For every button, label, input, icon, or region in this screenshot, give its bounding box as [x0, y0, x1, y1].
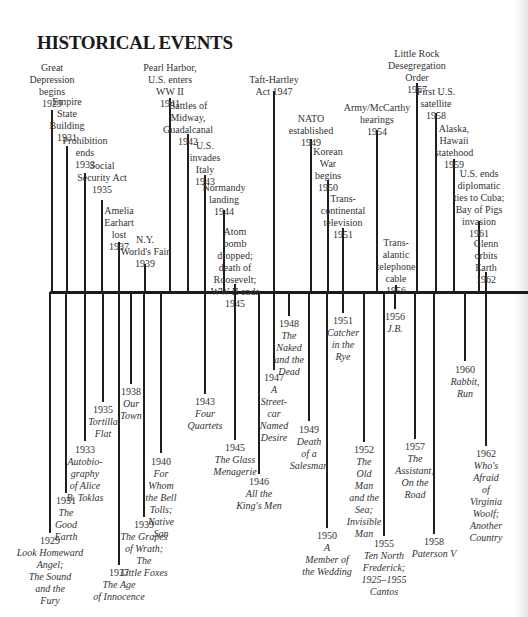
historical-event-label: Alaska, Hawaii statehood 1959 [435, 123, 473, 171]
work-year: 1958 [424, 536, 444, 547]
event-stem-below [204, 292, 206, 394]
work-title: The Naked and the Dead [274, 330, 304, 377]
work-title: All the King's Men [236, 488, 282, 511]
event-stem-above [101, 200, 103, 292]
event-stem-below [84, 292, 86, 441]
literary-work-label: 1952 The Old Man and the Sea; Invisible … [347, 444, 381, 540]
work-title: J.B. [387, 323, 403, 334]
work-year: 1951 [333, 315, 353, 326]
literary-work-label: 1945 The Glass Menagerie [213, 442, 256, 478]
work-title: Rabbit, Run [450, 376, 479, 399]
work-year: 1946 [249, 476, 269, 487]
work-title: The Good Earth [55, 507, 78, 542]
historical-event-label: Taft-Hartley Act 1947 [249, 74, 298, 98]
work-title: Paterson V [412, 548, 457, 559]
work-title: Our Town [120, 398, 141, 421]
work-title: The Assistant; On the Road [395, 453, 434, 500]
literary-work-label: 1947 A Street- car Named Desire [260, 372, 288, 444]
literary-work-label: 1940 For Whom the Bell Tolls; Native Son [146, 456, 177, 540]
event-stem-below [288, 292, 290, 316]
work-title: Who's Afraid of Virginia Woolf; Another … [470, 460, 503, 543]
literary-work-label: 1960 Rabbit, Run [450, 364, 479, 400]
work-year: 1960 [455, 364, 475, 375]
work-year: 1948 [279, 318, 299, 329]
historical-event-label: Social Security Act 1935 [77, 160, 127, 196]
work-title: The Old Man and the Sea; Invisible Man [347, 456, 381, 539]
literary-work-label: 1938 Our Town [120, 386, 141, 422]
work-year: 1949 [299, 424, 319, 435]
historical-event-label: First U.S. satellite 1958 [417, 86, 456, 122]
historical-event-label: NATO established 1949 [289, 113, 333, 149]
literary-work-label: 1955 Ten North Frederick; 1925–1955 Cant… [362, 538, 407, 598]
historical-event-label: Glenn orbits Earth 1962 [474, 238, 498, 286]
work-title: Catcher in the Rye [327, 327, 359, 362]
work-title: The Age of Innocence [93, 579, 144, 602]
page-edge-shading [514, 0, 528, 617]
literary-work-label: 1943 Four Quartets [188, 396, 223, 432]
event-stem-below [433, 292, 435, 534]
literary-work-label: 1962 Who's Afraid of Virginia Woolf; Ano… [470, 448, 503, 544]
historical-event-label: U.S. ends diplomatic ties to Cuba; Bay o… [454, 168, 505, 240]
work-title: Autobio- graphy of Alice B. Toklas [67, 456, 104, 503]
historical-event-label: Army/McCarthy hearings 1954 [344, 102, 411, 138]
page-title: HISTORICAL EVENTS [37, 32, 233, 54]
work-title: For Whom the Bell Tolls; Native Son [146, 468, 177, 539]
event-stem-below [49, 292, 51, 533]
event-stem-below [234, 292, 236, 440]
event-stem-above [187, 134, 189, 292]
literary-work-label: 1933 Autobio- graphy of Alice B. Toklas [67, 444, 104, 504]
work-title: Tortilla Flat [88, 416, 118, 439]
work-year: 1940 [151, 456, 171, 467]
literary-work-label: 1935 Tortilla Flat [88, 404, 118, 440]
event-stem-below [414, 292, 416, 439]
work-year: 1935 [93, 404, 113, 415]
event-stem-below [394, 292, 396, 309]
historical-event-label: U.S. invades Italy 1943 [190, 140, 221, 188]
event-stem-above [310, 139, 312, 292]
work-year: 1952 [354, 444, 374, 455]
work-title: Four Quartets [188, 408, 223, 431]
event-stem-below [308, 292, 310, 421]
work-year: 1950 [317, 530, 337, 541]
work-title: Ten North Frederick; 1925–1955 Cantos [362, 550, 407, 597]
work-title: A Member of the Wedding [302, 542, 351, 577]
literary-work-label: 1958 Paterson V [412, 536, 457, 560]
literary-work-label: 1957 The Assistant; On the Road [395, 441, 434, 501]
historical-event-label: Trans- alantic telephone cable 1956 [377, 237, 416, 297]
work-year: 1938 [121, 386, 141, 397]
work-title: Look Homeward Angel; The Sound and the F… [17, 547, 84, 606]
literary-work-label: 1929 Look Homeward Angel; The Sound and … [17, 535, 84, 607]
work-year: 1962 [476, 448, 496, 459]
literary-work-label: 1949 Death of a Salesman [290, 424, 328, 472]
literary-work-label: 1951 Catcher in the Rye [327, 315, 359, 363]
event-stem-below [160, 292, 162, 453]
historical-event-label: Trans- continental television 1951 [321, 193, 365, 241]
literary-work-label: 1950 A Member of the Wedding [302, 530, 351, 578]
event-stem-below [102, 292, 104, 402]
literary-work-label: 1956 J.B. [385, 311, 405, 335]
event-stem-above [273, 91, 275, 292]
historical-event-label: Korean War begins 1950 [313, 146, 342, 194]
historical-event-label: N.Y. World's Fair 1939 [120, 234, 169, 270]
work-title: A Street- car Named Desire [260, 384, 288, 443]
event-stem-below [464, 292, 466, 361]
event-stem-below [130, 292, 132, 384]
work-year: 1956 [385, 311, 405, 322]
work-year: 1933 [75, 444, 95, 455]
literary-work-label: 1948 The Naked and the Dead [274, 318, 304, 378]
event-stem-below [342, 292, 344, 313]
work-year: 1945 [225, 442, 245, 453]
work-year: 1943 [195, 396, 215, 407]
literary-work-label: 1946 All the King's Men [236, 476, 282, 512]
event-stem-below [485, 292, 487, 446]
work-year: 1955 [374, 538, 394, 549]
work-title: The Glass Menagerie [213, 454, 256, 477]
work-year: 1957 [405, 441, 425, 452]
historical-event-label: Normandy landing 1944 [203, 182, 246, 218]
work-title: Death of a Salesman [290, 436, 328, 471]
event-stem-below [363, 292, 365, 442]
